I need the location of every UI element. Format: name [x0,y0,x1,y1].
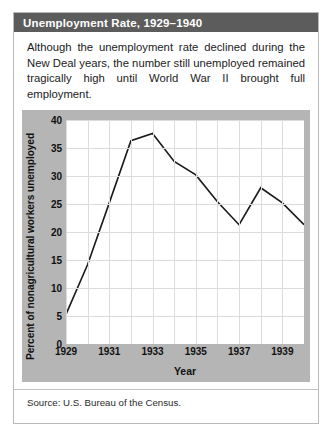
y-axis-tick-label: 20 [42,227,62,238]
x-axis-tick-labels: 192919311933193519371939 [66,346,304,360]
y-axis-title-text: Percent of nonagricultural workers unemp… [26,132,37,359]
gridline-horizontal [66,288,304,289]
page-title: Unemployment Rate, 1929–1940 [23,17,202,29]
y-axis-tick-label: 25 [42,199,62,210]
y-axis-tick-label: 35 [42,143,62,154]
source-note: Source: U.S. Bureau of the Census. [14,390,318,408]
gridline-horizontal [66,204,304,205]
x-axis-tick-label: 1931 [98,346,120,357]
x-axis-tick-label: 1933 [141,346,163,357]
figure-card: Unemployment Rate, 1929–1940 Although th… [13,12,319,424]
gridline-horizontal [66,260,304,261]
x-axis-tick-label: 1929 [55,346,77,357]
y-axis-tick-label: 40 [42,115,62,126]
y-axis-title: Percent of nonagricultural workers unemp… [22,110,40,382]
y-axis-tick-label: 15 [42,255,62,266]
gridline-horizontal [66,232,304,233]
x-axis-tick-label: 1935 [185,346,207,357]
x-axis-title: Year [66,365,304,377]
figure-title-bar: Unemployment Rate, 1929–1940 [14,13,318,32]
x-axis-tick-label: 1937 [228,346,250,357]
y-axis-tick-label: 30 [42,171,62,182]
caption-text: Although the unemployment rate declined … [27,40,305,102]
plot-area [66,120,304,344]
chart-container: Percent of nonagricultural workers unemp… [22,110,310,382]
y-axis-tick-label: 10 [42,283,62,294]
figure-caption: Although the unemployment rate declined … [14,32,318,108]
gridline-horizontal [66,176,304,177]
gridline-horizontal [66,148,304,149]
y-axis-tick-label: 5 [42,311,62,322]
gridline-horizontal [66,120,304,121]
gridline-horizontal [66,316,304,317]
x-axis-tick-label: 1939 [271,346,293,357]
y-axis-tick-labels: 0510152025303540 [40,110,62,382]
